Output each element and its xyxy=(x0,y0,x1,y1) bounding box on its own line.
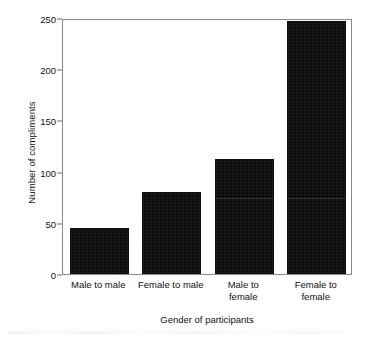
scan-band xyxy=(216,198,273,199)
y-tick-label: 100 xyxy=(2,167,56,178)
plot-inner xyxy=(63,20,351,274)
bar xyxy=(287,21,346,274)
bar xyxy=(70,228,129,274)
x-tick-label: Male to female xyxy=(207,279,280,302)
x-tick-label: Male to male xyxy=(62,279,135,291)
x-tick-label: Female to male xyxy=(135,279,208,291)
bar-chart-figure: Number of compliments 050100150200250 Ma… xyxy=(0,0,373,338)
scan-artifact xyxy=(8,331,348,334)
scan-band xyxy=(288,198,345,199)
bar xyxy=(142,192,201,274)
bar xyxy=(215,159,274,274)
y-tick-label: 0 xyxy=(2,270,56,281)
y-tick-label: 50 xyxy=(2,218,56,229)
y-tick-label: 150 xyxy=(2,116,56,127)
y-tick-label: 200 xyxy=(2,65,56,76)
x-axis-title: Gender of participants xyxy=(62,314,352,325)
y-axis-tick-labels: 050100150200250 xyxy=(0,0,56,338)
x-tick-label: Female to female xyxy=(280,279,353,302)
y-tick-label: 250 xyxy=(2,14,56,25)
plot-area xyxy=(62,19,352,275)
x-axis-tick-labels: Male to maleFemale to maleMale to female… xyxy=(62,279,352,313)
